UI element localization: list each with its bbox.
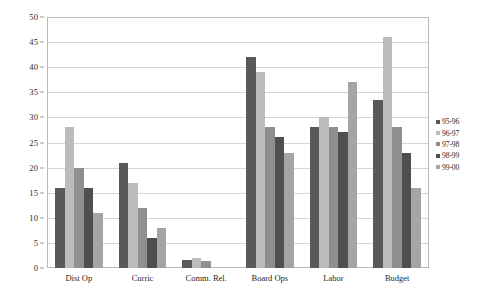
legend-swatch-icon bbox=[436, 131, 440, 135]
y-tick-mark bbox=[40, 242, 44, 243]
x-tick-label: Budget bbox=[385, 273, 410, 283]
bar bbox=[310, 127, 320, 268]
bar bbox=[411, 188, 421, 268]
legend-label: 96-97 bbox=[442, 129, 459, 138]
legend-item[interactable]: 95-96 bbox=[436, 116, 482, 127]
y-tick-label: 10 bbox=[29, 213, 38, 223]
bar bbox=[93, 213, 103, 268]
legend-swatch-icon bbox=[436, 165, 440, 169]
bar bbox=[74, 168, 84, 268]
y-tick-mark bbox=[40, 268, 44, 269]
y-tick-label: 25 bbox=[29, 138, 38, 148]
x-tick-label: Curric bbox=[132, 273, 154, 283]
bar bbox=[348, 82, 358, 268]
bar-group bbox=[111, 17, 175, 268]
legend-item[interactable]: 96-97 bbox=[436, 127, 482, 138]
bar bbox=[329, 127, 339, 268]
y-tick-label: 20 bbox=[29, 163, 38, 173]
legend-item[interactable]: 97-98 bbox=[436, 139, 482, 150]
y-tick-mark bbox=[40, 192, 44, 193]
y-tick-label: 5 bbox=[34, 238, 38, 248]
x-tick-label: Board Ops bbox=[252, 273, 289, 283]
bar bbox=[256, 72, 266, 268]
y-tick-mark bbox=[40, 117, 44, 118]
bar-group bbox=[47, 17, 111, 268]
bar bbox=[119, 163, 129, 268]
legend-swatch-icon bbox=[436, 120, 440, 124]
bar-group bbox=[174, 17, 238, 268]
bar bbox=[275, 137, 285, 268]
bar-group bbox=[365, 17, 429, 268]
y-tick-label: 0 bbox=[34, 263, 38, 273]
y-axis: 05101520253035404550 bbox=[0, 17, 44, 268]
y-tick-label: 50 bbox=[29, 12, 38, 22]
y-tick-label: 40 bbox=[29, 62, 38, 72]
bar bbox=[284, 153, 294, 268]
legend: 95-9696-9797-9898-9999-00 bbox=[436, 116, 482, 173]
legend-swatch-icon bbox=[436, 154, 440, 158]
y-tick-label: 45 bbox=[29, 37, 38, 47]
bar bbox=[392, 127, 402, 268]
bar bbox=[383, 37, 393, 268]
bar bbox=[373, 100, 383, 268]
x-axis: Dist OpCurricComm. Rel.Board OpsLaborBud… bbox=[47, 271, 429, 291]
bar bbox=[192, 258, 202, 268]
bar bbox=[201, 261, 211, 268]
bars-layer bbox=[47, 17, 429, 268]
legend-label: 99-00 bbox=[442, 163, 459, 172]
bar bbox=[246, 57, 256, 268]
y-tick-mark bbox=[40, 92, 44, 93]
legend-item[interactable]: 98-99 bbox=[436, 150, 482, 161]
y-tick-mark bbox=[40, 67, 44, 68]
legend-swatch-icon bbox=[436, 142, 440, 146]
legend-item[interactable]: 99-00 bbox=[436, 162, 482, 173]
bar bbox=[84, 188, 94, 268]
bar-chart: 05101520253035404550 Dist OpCurricComm. … bbox=[0, 0, 483, 305]
y-tick-mark bbox=[40, 167, 44, 168]
y-tick-mark bbox=[40, 17, 44, 18]
x-tick-label: Dist Op bbox=[65, 273, 92, 283]
x-tick-label: Labor bbox=[323, 273, 343, 283]
bar-group bbox=[302, 17, 366, 268]
bar-group bbox=[238, 17, 302, 268]
bar bbox=[402, 153, 412, 268]
bar bbox=[138, 208, 148, 268]
y-tick-label: 35 bbox=[29, 87, 38, 97]
y-tick-mark bbox=[40, 142, 44, 143]
y-tick-mark bbox=[40, 42, 44, 43]
bar bbox=[55, 188, 65, 268]
x-tick-label: Comm. Rel. bbox=[185, 273, 226, 283]
legend-label: 95-96 bbox=[442, 117, 459, 126]
bar bbox=[319, 117, 329, 268]
legend-label: 98-99 bbox=[442, 151, 459, 160]
bar bbox=[65, 127, 75, 268]
bar bbox=[338, 132, 348, 268]
bar bbox=[182, 260, 192, 268]
bar bbox=[147, 238, 157, 268]
y-tick-label: 15 bbox=[29, 188, 38, 198]
y-tick-label: 30 bbox=[29, 112, 38, 122]
y-tick-mark bbox=[40, 217, 44, 218]
bar bbox=[265, 127, 275, 268]
bar bbox=[157, 228, 167, 268]
legend-label: 97-98 bbox=[442, 140, 459, 149]
bar bbox=[128, 183, 138, 268]
